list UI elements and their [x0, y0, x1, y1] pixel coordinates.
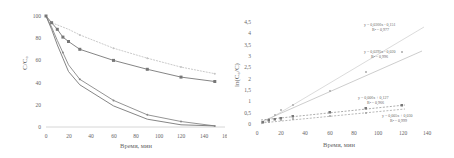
right-ytick: 0,5	[244, 110, 251, 116]
right-y-axis-label: ln(C₀/C)	[233, 62, 241, 86]
r2-3: R² = 0,966	[367, 100, 384, 106]
left-ytick: 20	[36, 102, 42, 108]
left-series-2-line	[46, 16, 215, 82]
left-x-axis-label: Время, мин	[120, 142, 152, 149]
right-chart-canvas: ln(C₀/C) 0 0,5 1 1,5 2 2,5 3 3,5 4 4,5 0…	[227, 0, 454, 158]
right-xtick: 140	[423, 130, 432, 136]
left-xtick: 100	[155, 133, 164, 139]
r2-4: R² = 0,999	[390, 118, 407, 124]
left-ytick: 100	[33, 13, 42, 19]
left-y-axis-label: C/C₀	[21, 56, 29, 70]
left-ytick: 0	[38, 124, 41, 130]
right-ytick: 3,5	[244, 42, 251, 48]
left-chart-canvas: C/C₀ 0 20 40 60 80 100 0 20 40 60 80 100…	[0, 0, 227, 158]
right-ytick: 3	[248, 53, 251, 59]
right-ytick: 4	[248, 30, 251, 36]
right-xtick: 20	[278, 130, 284, 136]
right-ytick: 2,5	[244, 64, 251, 70]
trendline-1	[261, 27, 424, 124]
left-xtick: 0	[45, 133, 48, 139]
left-ytick: 80	[36, 35, 42, 41]
r2-1: R² = 0,977	[372, 27, 389, 33]
right-xtick: 120	[399, 130, 408, 136]
left-series-2-markers	[45, 15, 217, 84]
left-series-4-line	[46, 16, 215, 126]
right-ytick: 1,5	[244, 87, 251, 93]
left-xtick: 60	[111, 133, 117, 139]
left-xtick: 20	[66, 133, 72, 139]
left-series-3-line	[46, 16, 215, 126]
left-xtick: 140	[200, 133, 209, 139]
right-xtick: 0	[256, 130, 259, 136]
r2-2: R² = 0,996	[371, 54, 388, 60]
left-xtick: 80	[133, 133, 139, 139]
right-xtick: 100	[374, 130, 383, 136]
right-x-axis-label: Время, мин	[323, 141, 355, 148]
right-x-ticks: 0 20 40 60 80 100 120 140	[256, 130, 432, 136]
right-ytick: 2	[248, 76, 251, 82]
left-chart: C/C₀ 0 20 40 60 80 100 0 20 40 60 80 100…	[0, 0, 227, 158]
right-xtick: 60	[327, 130, 333, 136]
left-xtick: 120	[177, 133, 186, 139]
left-ytick: 60	[36, 57, 42, 63]
right-y-ticks: 0 0,5 1 1,5 2 2,5 3 3,5 4 4,5	[244, 19, 251, 127]
right-chart: ln(C₀/C) 0 0,5 1 1,5 2 2,5 3 3,5 4 4,5 0…	[227, 0, 454, 158]
left-x-ticks: 0 20 40 60 80 100 120 140 160	[45, 133, 227, 139]
right-xtick: 80	[351, 130, 357, 136]
right-xtick: 40	[302, 130, 308, 136]
left-y-ticks: 0 20 40 60 80 100	[33, 13, 42, 130]
right-ytick: 4,5	[244, 19, 251, 25]
left-ytick: 40	[36, 80, 42, 86]
left-xtick: 40	[88, 133, 94, 139]
right-ytick: 1	[248, 98, 251, 104]
right-ytick: 0	[248, 121, 251, 127]
